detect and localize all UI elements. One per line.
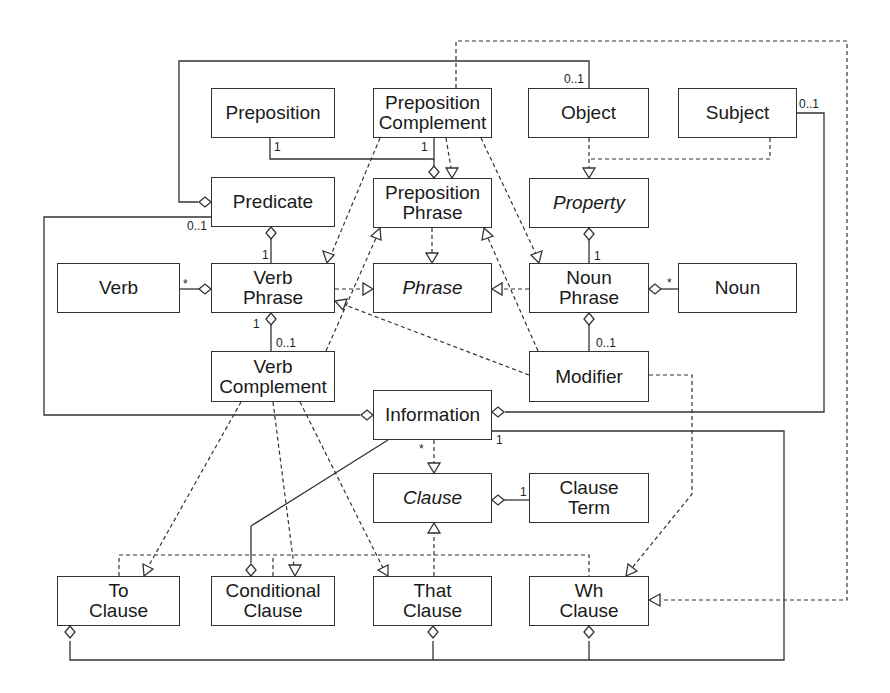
class-label: Clause — [403, 601, 462, 621]
class-label: Predicate — [233, 192, 313, 212]
class-conditional-clause: ConditionalClause — [211, 576, 335, 626]
class-that-clause: ThatClause — [373, 576, 492, 626]
class-modifier: Modifier — [529, 351, 649, 402]
class-noun: Noun — [678, 263, 797, 313]
class-label: Conditional — [225, 581, 320, 601]
class-clause-term: ClauseTerm — [529, 473, 649, 523]
class-label: Clause — [403, 488, 462, 508]
multiplicity-label: * — [183, 278, 188, 290]
class-preposition-complement: PrepositionComplement — [373, 88, 492, 138]
class-information: Information — [373, 390, 492, 440]
class-label: Information — [385, 405, 480, 425]
class-object: Object — [528, 88, 649, 138]
class-label: Complement — [379, 113, 487, 133]
multiplicity-label: 1 — [421, 141, 428, 153]
multiplicity-label: * — [667, 277, 672, 289]
multiplicity-label: 0..1 — [564, 73, 584, 85]
class-wh-clause: WhClause — [529, 576, 649, 626]
class-label: Property — [553, 193, 625, 213]
class-label: That — [413, 581, 451, 601]
class-to-clause: ToClause — [57, 576, 180, 626]
class-preposition-phrase: PrepositionPhrase — [373, 178, 492, 228]
class-label: Noun — [566, 268, 611, 288]
preposition-link — [270, 138, 434, 159]
class-preposition: Preposition — [211, 88, 335, 138]
multiplicity-label: 0..1 — [799, 98, 819, 110]
class-label: Term — [568, 498, 610, 518]
class-label: Wh — [575, 581, 604, 601]
class-label: Preposition — [385, 93, 480, 113]
class-label: Complement — [219, 377, 327, 397]
multiplicity-label: 0..1 — [276, 337, 296, 349]
class-label: Phrase — [559, 288, 619, 308]
multiplicity-label: 1 — [594, 250, 601, 262]
class-label: Clause — [243, 601, 302, 621]
class-verb-phrase: VerbPhrase — [211, 263, 335, 313]
multiplicity-label: * — [419, 443, 424, 455]
class-label: Object — [561, 103, 616, 123]
class-noun-phrase: NounPhrase — [529, 263, 649, 313]
class-label: Preposition — [225, 103, 320, 123]
class-predicate: Predicate — [211, 177, 335, 227]
class-label: Verb — [253, 268, 292, 288]
class-label: Phrase — [402, 203, 462, 223]
multiplicity-label: 1 — [262, 249, 269, 261]
class-property: Property — [529, 178, 649, 228]
class-label: Modifier — [555, 367, 623, 387]
class-label: Clause — [559, 601, 618, 621]
multiplicity-label: 1 — [253, 318, 260, 330]
class-label: Verb — [253, 357, 292, 377]
class-clause: Clause — [373, 473, 492, 523]
class-subject: Subject — [678, 88, 797, 138]
class-phrase: Phrase — [373, 263, 492, 313]
class-label: Noun — [715, 278, 760, 298]
class-label: Phrase — [402, 278, 462, 298]
uml-diagram: .s { stroke:#333; stroke-width:1.3; fill… — [0, 0, 890, 693]
multiplicity-label: 0..1 — [596, 337, 616, 349]
multiplicity-label: 0..1 — [187, 220, 207, 232]
class-label: Clause — [559, 478, 618, 498]
class-label: Phrase — [243, 288, 303, 308]
multiplicity-label: 1 — [496, 434, 503, 446]
class-label: Verb — [99, 278, 138, 298]
class-verb: Verb — [57, 263, 180, 313]
class-label: Clause — [89, 601, 148, 621]
class-label: Subject — [706, 103, 769, 123]
multiplicity-label: 1 — [274, 141, 281, 153]
class-label: Preposition — [385, 183, 480, 203]
class-label: To — [108, 581, 128, 601]
multiplicity-label: 1 — [520, 486, 527, 498]
class-verb-complement: VerbComplement — [211, 351, 335, 402]
